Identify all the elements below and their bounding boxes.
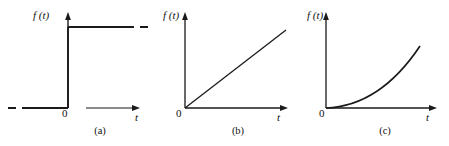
ramp-waveform-b — [185, 30, 286, 108]
panel-unit-step: f (t) t 0 (a) — [0, 0, 150, 146]
figure-three-signal-waveforms: f (t) t 0 (a) f (t) t 0 (b) — [0, 0, 449, 146]
parabolic-waveform-c — [326, 46, 420, 108]
y-axis-c — [323, 12, 329, 108]
panel-a-caption: (a) — [80, 126, 120, 137]
x-axis-b — [185, 105, 288, 111]
step-waveform-a — [8, 27, 149, 108]
panel-b-y-axis-label: f (t) — [163, 10, 179, 21]
panel-c-caption: (c) — [365, 126, 405, 137]
panel-c-origin-label: 0 — [319, 108, 325, 119]
panel-a-y-axis-label: f (t) — [33, 10, 49, 21]
panel-ramp: f (t) t 0 (b) — [150, 0, 295, 146]
panel-a-x-axis-label: t — [135, 112, 138, 123]
panel-b-x-axis-label: t — [277, 112, 280, 123]
panel-a-origin-label: 0 — [62, 108, 68, 119]
panel-parabola: f (t) t 0 (c) — [295, 0, 449, 146]
panel-c-y-axis-label: f (t) — [307, 10, 323, 21]
panel-b-plot — [150, 0, 295, 146]
y-axis-b — [182, 12, 188, 108]
x-axis-a — [86, 105, 140, 111]
panel-c-x-axis-label: t — [426, 112, 429, 123]
panel-c-plot — [295, 0, 449, 146]
panel-b-caption: (b) — [218, 126, 258, 137]
panel-b-origin-label: 0 — [176, 108, 182, 119]
panel-a-plot — [0, 0, 150, 146]
